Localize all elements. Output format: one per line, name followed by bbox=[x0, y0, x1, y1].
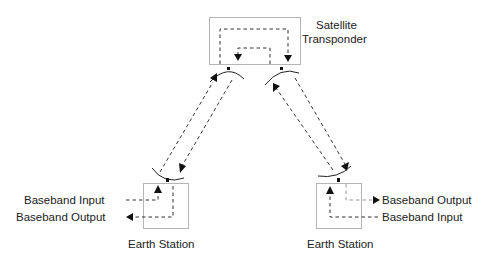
left-antenna-feed bbox=[227, 67, 230, 70]
left-output-arrow bbox=[126, 213, 133, 221]
left-link-beams bbox=[160, 73, 232, 173]
left-station-label: Earth Station bbox=[128, 238, 194, 250]
right-baseband-input-label: Baseband Input bbox=[382, 211, 463, 223]
right-station-feed bbox=[337, 178, 340, 182]
transponder-inner-arrow bbox=[234, 54, 242, 61]
right-baseband-output-path bbox=[346, 184, 372, 200]
right-antenna-feed bbox=[280, 67, 283, 70]
transponder-outer-path bbox=[220, 29, 288, 64]
satellite-link-diagram: Satellite Transponder Baseband Input Bas… bbox=[0, 0, 494, 263]
right-link-beams bbox=[273, 78, 349, 171]
right-station-box bbox=[317, 184, 362, 229]
left-input-arrow bbox=[154, 185, 162, 193]
earth-station-left: Baseband Input Baseband Output Earth Sta… bbox=[16, 168, 194, 250]
transponder-outer-arrow bbox=[284, 55, 292, 62]
left-station-feed bbox=[166, 178, 169, 182]
right-antenna-dish bbox=[265, 71, 299, 85]
left-baseband-input-path bbox=[126, 192, 158, 200]
earth-station-right: Baseband Output Baseband Input Earth Sta… bbox=[307, 166, 472, 250]
right-baseband-output-label: Baseband Output bbox=[382, 194, 472, 206]
left-baseband-output-path bbox=[133, 186, 173, 217]
left-station-box bbox=[144, 184, 189, 229]
right-output-arrow bbox=[373, 196, 380, 204]
satellite-label-line2: Transponder bbox=[302, 33, 367, 45]
satellite-right-antenna bbox=[265, 67, 299, 85]
right-input-arrow bbox=[326, 186, 334, 194]
satellite-label-line1: Satellite bbox=[316, 19, 357, 31]
left-baseband-output-label: Baseband Output bbox=[16, 211, 106, 223]
transponder-inner-path bbox=[238, 48, 270, 64]
right-uplink-arrow bbox=[273, 83, 280, 92]
right-baseband-input-path bbox=[330, 193, 378, 217]
left-downlink-arrow bbox=[179, 163, 186, 173]
left-baseband-input-label: Baseband Input bbox=[24, 194, 105, 206]
satellite-transponder: Satellite Transponder bbox=[210, 18, 367, 65]
right-station-label: Earth Station bbox=[307, 238, 373, 250]
